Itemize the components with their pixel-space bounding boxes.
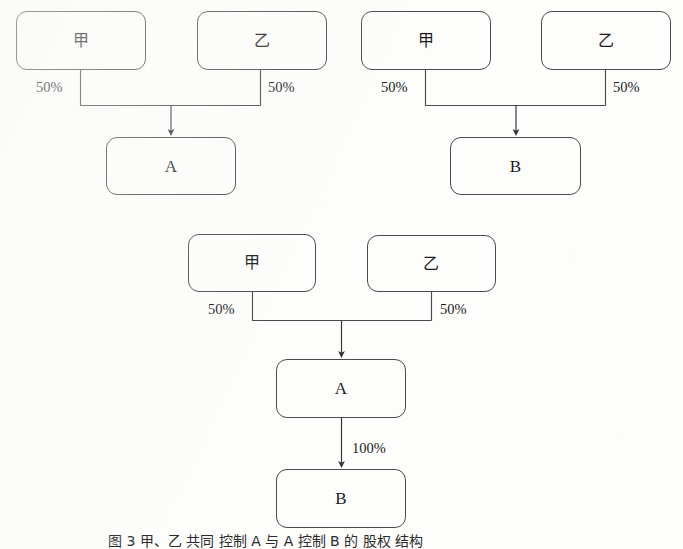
node-label: 乙 <box>598 33 614 49</box>
node-label: 甲 <box>244 255 260 271</box>
node-label: A <box>165 158 178 175</box>
edge-line-jia-to-b <box>426 70 606 106</box>
node-jia-bottom[interactable]: 甲 <box>188 234 316 292</box>
edge-label-jia-to-b: 50% <box>381 80 408 95</box>
node-a-top-left[interactable]: A <box>106 137 236 195</box>
edge-label-yi-to-b: 50% <box>613 80 640 95</box>
node-label: 甲 <box>418 33 434 49</box>
node-a-bottom[interactable]: A <box>276 359 406 418</box>
edge-line-jia-to-a-bottom <box>253 292 432 321</box>
node-b-top-right[interactable]: B <box>450 137 581 195</box>
node-yi-top-left[interactable]: 乙 <box>197 11 327 70</box>
edge-line-jia-to-a <box>81 70 261 106</box>
node-yi-top-right[interactable]: 乙 <box>541 11 671 70</box>
node-label: 乙 <box>254 33 270 49</box>
node-label: 甲 <box>73 33 89 49</box>
edges-diagram-top-right <box>426 70 606 133</box>
node-label: B <box>335 490 347 507</box>
node-yi-bottom[interactable]: 乙 <box>367 235 496 292</box>
edges-diagram-top-left <box>81 70 261 133</box>
node-label: A <box>335 380 348 397</box>
node-label: B <box>510 158 522 175</box>
node-label: 乙 <box>423 256 439 272</box>
edge-label-a-to-b-bottom: 100% <box>352 441 386 456</box>
edge-label-jia-to-a-bottom: 50% <box>208 302 235 317</box>
node-jia-top-right[interactable]: 甲 <box>361 11 491 70</box>
figure-caption: 图 3 甲、乙 共同 控制 A 与 A 控制 B 的 股权 结构 <box>108 534 578 549</box>
edge-label-jia-to-a: 50% <box>36 80 63 95</box>
node-b-bottom[interactable]: B <box>276 469 406 528</box>
edge-label-yi-to-a: 50% <box>268 80 295 95</box>
edge-label-yi-to-a-bottom: 50% <box>440 302 467 317</box>
node-jia-top-left[interactable]: 甲 <box>16 11 146 70</box>
